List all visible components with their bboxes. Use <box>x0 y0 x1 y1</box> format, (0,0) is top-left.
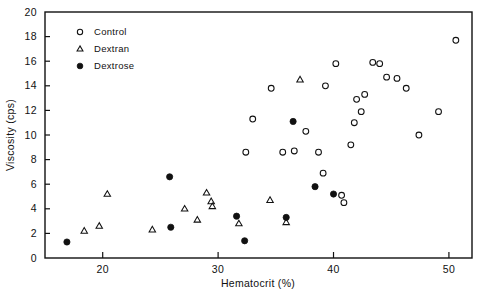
y-axis-tick-label: 10 <box>25 129 37 141</box>
y-axis-title: Viscosity (cps) <box>4 99 16 171</box>
x-axis-tick-label: 40 <box>327 263 339 275</box>
y-axis-tick-label: 14 <box>25 79 37 91</box>
scatter-plot-figure: 02468101214161820 20304050 ControlDextra… <box>0 0 486 293</box>
y-axis-tick-label: 12 <box>25 104 37 116</box>
data-point-filled-circle <box>330 191 336 197</box>
data-point-filled-circle <box>290 118 296 124</box>
data-point-filled-circle <box>233 213 239 219</box>
data-point-filled-circle <box>168 224 174 230</box>
y-axis-tick-label: 16 <box>25 55 37 67</box>
y-axis-tick-label: 18 <box>25 30 37 42</box>
x-axis-tick-label: 50 <box>443 263 455 275</box>
data-point-filled-circle <box>64 239 70 245</box>
data-point-filled-circle <box>77 63 83 69</box>
y-axis-tick-label: 20 <box>25 6 37 18</box>
data-point-filled-circle <box>242 238 248 244</box>
y-axis-tick-label: 2 <box>31 227 37 239</box>
y-axis-tick-label: 8 <box>31 153 37 165</box>
figure-background <box>0 0 486 293</box>
data-point-filled-circle <box>167 174 173 180</box>
legend-item-label: Dextrose <box>94 60 134 71</box>
legend-item-label: Dextran <box>94 43 129 54</box>
y-axis-tick-label: 0 <box>31 252 37 264</box>
y-axis-tick-label: 6 <box>31 178 37 190</box>
plot-canvas: 02468101214161820 20304050 ControlDextra… <box>0 0 486 293</box>
legend-item-label: Control <box>94 26 127 37</box>
data-point-filled-circle <box>312 184 318 190</box>
data-point-filled-circle <box>283 214 289 220</box>
x-axis-title: Hematocrit (%) <box>221 277 295 289</box>
y-axis-tick-label: 4 <box>31 202 37 214</box>
x-axis-tick-label: 20 <box>96 263 108 275</box>
x-axis-tick-label: 30 <box>212 263 224 275</box>
